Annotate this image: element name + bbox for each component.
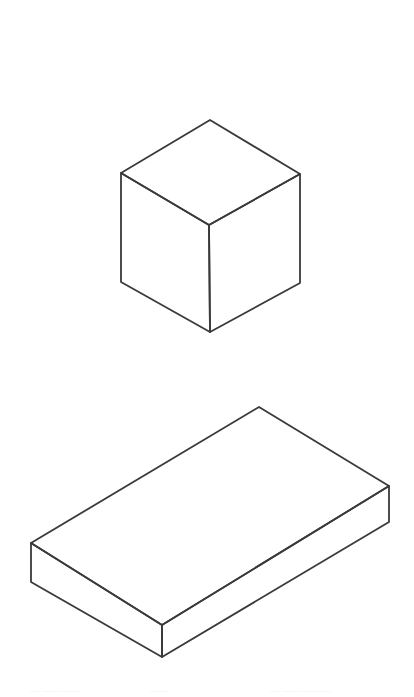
figure-canvas (0, 0, 414, 697)
